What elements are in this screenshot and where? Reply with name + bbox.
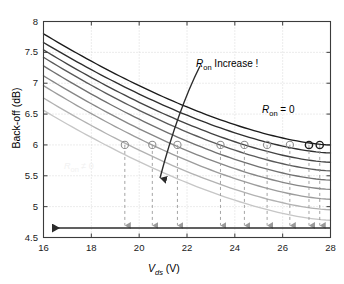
y-tick-label: 4.5: [10, 232, 38, 243]
gridlines: [44, 22, 331, 238]
annotation-ron-increase: Ron Increase !: [196, 58, 258, 72]
annotation-ron-nonzero: Ron ≠ 0: [64, 161, 94, 174]
x-tick-label: 26: [275, 242, 291, 253]
annotation-ron-zero: Ron = 0: [262, 104, 295, 118]
y-tick-label: 5: [10, 201, 38, 212]
x-tick-label: 24: [227, 242, 243, 253]
y-tick-label: 6.5: [10, 108, 38, 119]
x-tick-label: 20: [131, 242, 147, 253]
y-tick-label: 7.5: [10, 46, 38, 57]
chart-canvas: [0, 0, 344, 284]
x-tick-label: 22: [179, 242, 195, 253]
x-tick-label: 28: [323, 242, 339, 253]
y-tick-label: 7: [10, 77, 38, 88]
x-axis-label: Vds (V): [148, 262, 180, 277]
y-tick-label: 8: [10, 16, 38, 27]
x-tick-label: 16: [36, 242, 52, 253]
chart-figure: Back-off (dB) Vds (V) Ron Increase ! Ron…: [0, 0, 344, 284]
y-tick-label: 6: [10, 139, 38, 150]
x-tick-label: 18: [83, 242, 99, 253]
y-tick-label: 5.5: [10, 170, 38, 181]
